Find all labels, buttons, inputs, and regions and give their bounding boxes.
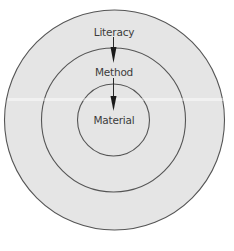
label-material: Material: [93, 114, 134, 126]
label-method: Method: [95, 66, 133, 78]
concentric-circles-diagram: Literacy Method Material: [0, 0, 234, 251]
label-literacy: Literacy: [94, 26, 134, 38]
scan-artifact-streak: [8, 98, 226, 101]
